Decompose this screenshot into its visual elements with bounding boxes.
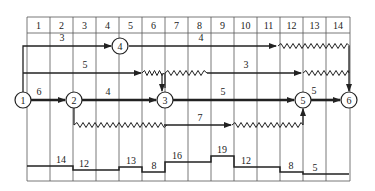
column-header: 2: [59, 20, 64, 31]
free-float-1-3: [142, 71, 164, 76]
activity-label: 5: [221, 86, 226, 97]
free-float-4-6: [278, 44, 350, 49]
column-header: 5: [128, 20, 133, 31]
network-diagram: 1 2 3 4 5 6 7 8 9 10 11 12 13 14: [0, 0, 375, 191]
histogram-value: 8: [289, 160, 294, 171]
column-header: 4: [105, 20, 110, 31]
node-4: 4: [112, 38, 128, 54]
column-header: 8: [197, 20, 202, 31]
node-label: 5: [301, 95, 306, 106]
column-header: 9: [220, 20, 225, 31]
node-5: 5: [295, 92, 311, 108]
column-header: 13: [310, 20, 320, 31]
column-header: 14: [333, 20, 343, 31]
node-label: 4: [118, 41, 123, 52]
free-float-3-6-a: [165, 71, 207, 76]
column-header: 11: [264, 20, 274, 31]
node-label: 3: [163, 95, 168, 106]
histogram-value: 12: [241, 155, 251, 166]
activity-label: 3: [60, 32, 65, 43]
column-header: 6: [151, 20, 156, 31]
histogram-value: 13: [126, 155, 136, 166]
histogram-value: 16: [172, 150, 182, 161]
activity-label: 4: [106, 86, 111, 97]
free-float-2-5-a: [74, 123, 167, 128]
activity-label: 4: [199, 32, 204, 43]
free-float-2-5-b: [232, 123, 303, 128]
column-header: 1: [36, 20, 41, 31]
histogram-value: 5: [313, 162, 318, 173]
activity-label: 7: [198, 112, 203, 123]
node-6: 6: [341, 92, 357, 108]
activity-label: 5: [83, 59, 88, 70]
histogram-value: 19: [217, 144, 227, 155]
node-label: 2: [72, 95, 77, 106]
activities: [23, 44, 350, 128]
histogram-labels: 14 12 13 8 16 19 12 8 5: [56, 144, 318, 173]
histogram-value: 12: [79, 158, 89, 169]
column-header: 3: [82, 20, 87, 31]
histogram-value: 14: [56, 154, 66, 165]
column-header: 12: [287, 20, 297, 31]
node-label: 6: [347, 95, 352, 106]
activity-label: 5: [312, 85, 317, 96]
column-headers: 1 2 3 4 5 6 7 8 9 10 11 12 13 14: [36, 20, 343, 31]
activity-label: 3: [244, 59, 249, 70]
node-2: 2: [66, 92, 82, 108]
node-1: 1: [15, 92, 31, 108]
column-header: 7: [174, 20, 179, 31]
histogram-value: 8: [152, 160, 157, 171]
node-3: 3: [157, 92, 173, 108]
activity-label: 6: [37, 86, 42, 97]
node-label: 1: [21, 95, 26, 106]
column-header: 10: [241, 20, 251, 31]
